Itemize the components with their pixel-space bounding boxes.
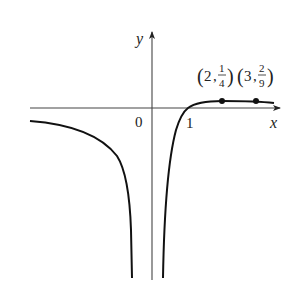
svg-text:(: ( xyxy=(237,65,244,88)
point-3-two-ninths xyxy=(253,98,259,104)
svg-text:1: 1 xyxy=(219,62,225,74)
svg-text:4: 4 xyxy=(219,77,225,89)
svg-text:(: ( xyxy=(197,65,204,88)
graph-canvas: y x 0 1 ( 2 , 1 4 ) ( 3 , 2 9 ) xyxy=(0,0,290,288)
x-axis-label: x xyxy=(269,114,277,131)
svg-text:,: , xyxy=(213,68,217,84)
annotation-point-2: ( 2 , 1 4 ) xyxy=(197,62,234,89)
tick-label-one: 1 xyxy=(186,115,194,131)
point-2-quarter xyxy=(219,98,225,104)
curve-left-branch xyxy=(30,121,132,278)
curve-right-branch xyxy=(163,101,274,278)
svg-text:): ) xyxy=(267,65,274,88)
y-axis-label: y xyxy=(134,30,144,48)
annotation-point-3: ( 3 , 2 9 ) xyxy=(237,62,274,89)
origin-label: 0 xyxy=(135,114,143,130)
svg-text:): ) xyxy=(227,65,234,88)
function-graph: y x 0 1 ( 2 , 1 4 ) ( 3 , 2 9 ) xyxy=(0,0,290,288)
svg-text:2: 2 xyxy=(259,62,265,74)
svg-text:3: 3 xyxy=(244,68,252,84)
svg-text:9: 9 xyxy=(259,77,265,89)
svg-text:,: , xyxy=(253,68,257,84)
svg-text:2: 2 xyxy=(204,68,212,84)
